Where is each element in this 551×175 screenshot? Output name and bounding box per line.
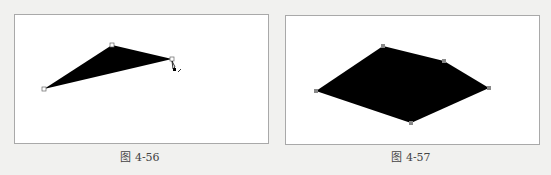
pen-tool-cursor-icon	[172, 61, 181, 72]
anchor-point[interactable]	[110, 43, 114, 47]
anchor-point[interactable]	[442, 59, 446, 63]
anchor-point[interactable]	[409, 121, 413, 125]
figure-caption: 图 4-56	[100, 148, 180, 164]
triangle-shape	[44, 45, 172, 89]
anchor-point[interactable]	[487, 86, 491, 90]
pentagon-shape	[316, 46, 489, 123]
figure-caption: 图 4-57	[371, 148, 451, 164]
anchor-point[interactable]	[314, 89, 318, 93]
anchor-point[interactable]	[381, 44, 385, 48]
anchor-point[interactable]	[170, 57, 174, 61]
anchor-point[interactable]	[42, 87, 46, 91]
shapes-canvas	[0, 0, 551, 175]
